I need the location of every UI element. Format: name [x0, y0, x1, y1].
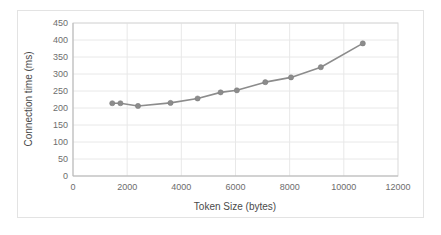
- data-point: [195, 96, 200, 101]
- y-tick-label-50: 50: [58, 154, 68, 164]
- x-axis-tick-labels: 020004000600080001000012000: [70, 182, 410, 192]
- x-tick-label-4000: 4000: [171, 182, 191, 192]
- y-tick-label-200: 200: [53, 103, 68, 113]
- data-point: [318, 65, 323, 70]
- data-point: [118, 101, 123, 106]
- y-tick-label-0: 0: [63, 171, 68, 181]
- y-tick-label-250: 250: [53, 86, 68, 96]
- data-point: [288, 75, 293, 80]
- data-point: [234, 88, 239, 93]
- data-point: [110, 101, 115, 106]
- chart-frame: 050100150200250300350400450 020004000600…: [17, 10, 424, 218]
- y-tick-label-100: 100: [53, 137, 68, 147]
- y-tick-label-450: 450: [53, 18, 68, 28]
- y-axis-title: Connection time (ms): [23, 51, 34, 146]
- data-point: [168, 100, 173, 105]
- x-tick-label-10000: 10000: [331, 182, 356, 192]
- y-axis-tick-labels: 050100150200250300350400450: [53, 18, 68, 181]
- data-point: [263, 80, 268, 85]
- x-tick-label-8000: 8000: [280, 182, 300, 192]
- x-tick-label-2000: 2000: [117, 182, 137, 192]
- connection-time-line-chart: 050100150200250300350400450 020004000600…: [18, 11, 423, 217]
- x-tick-label-12000: 12000: [385, 182, 410, 192]
- x-axis-title: Token Size (bytes): [194, 201, 276, 212]
- y-tick-label-400: 400: [53, 35, 68, 45]
- y-tick-label-150: 150: [53, 120, 68, 130]
- data-point: [135, 103, 140, 108]
- data-point: [360, 41, 365, 46]
- y-tick-label-350: 350: [53, 52, 68, 62]
- x-tick-label-0: 0: [70, 182, 75, 192]
- x-tick-label-6000: 6000: [225, 182, 245, 192]
- data-point: [218, 90, 223, 95]
- y-tick-label-300: 300: [53, 69, 68, 79]
